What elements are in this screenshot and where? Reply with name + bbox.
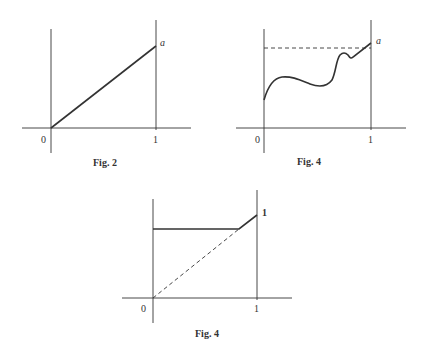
fig4-origin-label: 0 [141,304,146,314]
fig3-x-one-label: 1 [368,135,373,145]
fig2-caption: Fig. 2 [93,158,117,168]
fig3-endpoint-label: a [376,36,381,46]
figures-canvas [0,0,421,356]
fig4-endpoint-label: 1 [262,208,267,218]
fig2-plot [22,20,191,153]
fig2-line [51,46,156,128]
fig2-endpoint-label: a [160,38,165,48]
fig4-x-one-label: 1 [254,304,259,314]
fig4-solid-path [153,215,257,229]
fig3-origin-label: 0 [255,135,260,145]
fig2-origin-label: 0 [41,135,46,145]
fig4-caption: Fig. 4 [195,329,219,339]
fig3-curve [264,43,371,100]
fig4-dashed-diagonal [153,229,239,298]
fig2-x-one-label: 1 [153,135,158,145]
fig3-caption: Fig. 4 [297,157,321,167]
